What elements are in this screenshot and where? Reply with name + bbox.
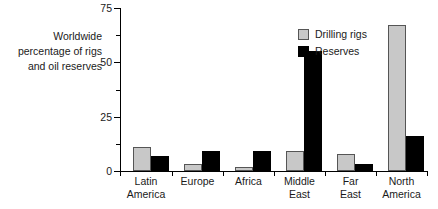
legend-item-drilling-rigs: Drilling rigs (298, 26, 438, 43)
bar-reserves-middle-east (304, 51, 322, 171)
x-label-latin-america-line-2: America (120, 188, 172, 201)
x-label-africa: Africa (223, 175, 274, 188)
bar-reserves-far-east (355, 164, 373, 171)
bar-reserves-north-america (406, 136, 424, 171)
chart-figure: Worldwide percentage of rigs and oil res… (0, 0, 438, 209)
y-tick-75 (114, 8, 120, 9)
bar-drilling-rigs-latin-america (133, 147, 151, 171)
y-tick-minor-62-5 (116, 35, 120, 36)
x-label-far-east-line-2: East (325, 188, 376, 201)
bar-drilling-rigs-europe (184, 164, 202, 171)
x-label-middle-east: Middle East (274, 175, 325, 201)
y-tick-50 (114, 62, 120, 63)
y-tick-minor-12-5 (116, 144, 120, 145)
legend-swatch-drilling-rigs (298, 29, 309, 40)
y-tick-label-0: 0 (86, 166, 112, 177)
legend-item-reserves: Reserves (298, 43, 438, 60)
x-label-far-east: Far East (325, 175, 376, 201)
bar-reserves-africa (253, 151, 271, 171)
y-tick-25 (114, 117, 120, 118)
x-label-middle-east-line-1: Middle (274, 175, 325, 188)
bar-group-latin-america (133, 8, 173, 171)
x-label-middle-east-line-2: East (274, 188, 325, 201)
bar-drilling-rigs-middle-east (286, 151, 304, 171)
bar-drilling-rigs-africa (235, 167, 253, 171)
x-label-europe: Europe (172, 175, 223, 188)
x-label-latin-america: Latin America (120, 175, 172, 201)
x-label-north-america-line-2: America (376, 188, 427, 201)
x-label-far-east-line-1: Far (325, 175, 376, 188)
legend-label-reserves: Reserves (315, 46, 359, 57)
y-tick-label-50: 50 (86, 57, 112, 68)
y-tick-label-75: 75 (86, 3, 112, 14)
bar-drilling-rigs-far-east (337, 154, 355, 171)
bar-reserves-europe (202, 151, 220, 171)
y-tick-labels: 0 25 50 75 (86, 8, 112, 172)
legend: Drilling rigs Reserves (298, 26, 438, 60)
x-label-north-america-line-1: North (376, 175, 427, 188)
x-label-africa-line-1: Africa (223, 175, 274, 188)
x-label-latin-america-line-1: Latin (120, 175, 172, 188)
legend-swatch-reserves (298, 46, 309, 57)
x-label-north-america: North America (376, 175, 427, 201)
legend-label-drilling-rigs: Drilling rigs (315, 29, 367, 40)
bar-reserves-latin-america (151, 156, 169, 171)
x-axis-labels: Latin America Europe Africa Middle East … (120, 175, 428, 207)
y-tick-label-25: 25 (86, 112, 112, 123)
plot-area: 0 25 50 75 (120, 8, 428, 172)
bar-group-africa (235, 8, 275, 171)
x-label-europe-line-1: Europe (172, 175, 223, 188)
bar-group-europe (184, 8, 224, 171)
y-tick-minor-37-5 (116, 90, 120, 91)
